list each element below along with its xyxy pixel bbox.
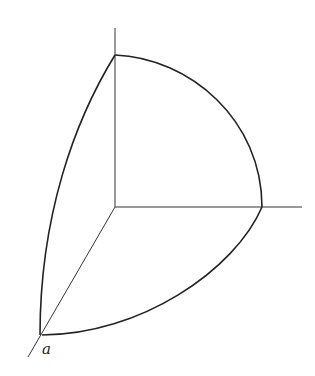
point-a-label: a xyxy=(42,340,51,358)
lower-arc xyxy=(42,207,262,335)
octant-diagram: a xyxy=(0,0,315,376)
upper-right-arc xyxy=(115,55,262,207)
left-arc xyxy=(40,55,115,335)
oblique-axis xyxy=(28,207,115,357)
